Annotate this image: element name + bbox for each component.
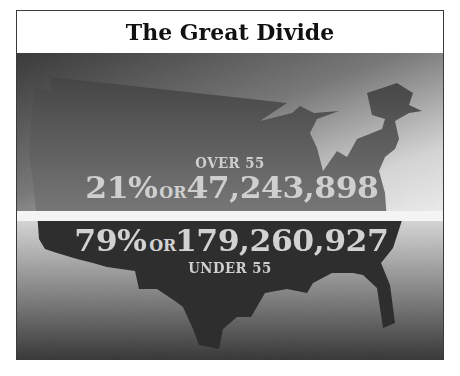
infographic-frame: The Great Divide xyxy=(16,10,444,360)
under-55-stat: 79%OR179,260,927 xyxy=(17,223,443,258)
under-55-percent: 79% xyxy=(75,223,147,258)
under-55-label: UNDER 55 xyxy=(28,260,433,276)
over-55-stat: 21%OR47,243,898 xyxy=(17,170,443,205)
over-55-connector: OR xyxy=(159,183,186,202)
over-55-count: 47,243,898 xyxy=(186,170,378,205)
over-55-label: OVER 55 xyxy=(28,155,433,171)
over-55-percent: 21% xyxy=(85,170,157,205)
under-55-connector: OR xyxy=(149,236,176,255)
infographic-title: The Great Divide xyxy=(126,18,334,45)
under-55-count: 179,260,927 xyxy=(175,223,388,258)
us-map-graphic xyxy=(17,53,443,360)
divider-band xyxy=(17,211,443,221)
map-panel: OVER 55 21%OR47,243,898 79%OR179,260,927… xyxy=(17,53,443,360)
title-bar: The Great Divide xyxy=(17,11,443,53)
